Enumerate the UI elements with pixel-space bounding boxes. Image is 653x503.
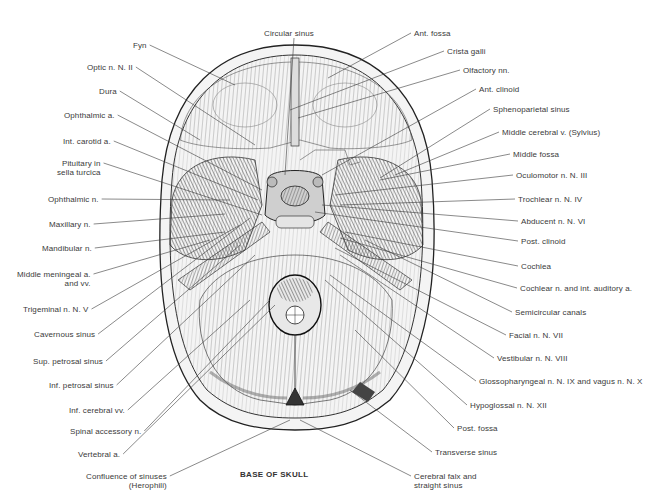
label-transverse-sinus: Transverse sinus	[435, 448, 497, 457]
label-trigeminal-n-n-v: Trigeminal n. N. V	[23, 305, 89, 314]
label-ant-fossa: Ant. fossa	[414, 29, 451, 38]
label-ant-clinoid: Ant. clinoid	[479, 85, 519, 94]
leader-line-confluence-of-sinuses-herophili	[170, 420, 290, 476]
label-abducent-n-n-vi: Abducent n. N. VI	[521, 217, 585, 226]
label-sphenoparietal-sinus: Sphenoparietal sinus	[493, 105, 570, 114]
label-hypoglossal-n-n-xii: Hypoglossal n. N. XII	[470, 401, 547, 410]
base-of-skull-illustration: FynOptic n. N. IIDuraOphthalmic a.Int. c…	[0, 0, 653, 503]
label-post-clinoid: Post. clinoid	[521, 237, 565, 246]
label-trochlear-n-n-iv: Trochlear n. N. IV	[518, 195, 582, 204]
label-confluence-of-sinuses-herophili: Confluence of sinuses (Herophili)	[86, 472, 167, 490]
label-ophthalmic-a: Ophthalmic a.	[64, 111, 115, 120]
label-pituitary-in-sella-turcica: Pituitary in sella turcica	[57, 159, 101, 177]
label-semicircular-canals: Semicircular canals	[515, 308, 586, 317]
label-glossopharyngeal-n-n-ix-and-vagus-n-n-x: Glossopharyngeal n. N. IX and vagus n. N…	[479, 377, 643, 386]
label-cavernous-sinus: Cavernous sinus	[34, 330, 95, 339]
label-cerebral-falx-and-straight-sinus: Cerebral falx and straight sinus	[414, 472, 477, 490]
label-olfactory-nn: Olfactory nn.	[463, 66, 510, 75]
label-vestibular-n-n-viii: Vestibular n. N. VIII	[497, 354, 568, 363]
label-circular-sinus: Circular sinus	[264, 29, 314, 38]
label-middle-cerebral-v-sylvius: Middle cerebral v. (Sylvius)	[502, 128, 600, 137]
label-fyn: Fyn	[133, 41, 147, 50]
label-crista-galli: Crista galli	[447, 47, 486, 56]
label-sup-petrosal-sinus: Sup. petrosal sinus	[33, 357, 103, 366]
label-oculomotor-n-n-iii: Oculomotor n. N. III	[516, 171, 587, 180]
label-ophthalmic-n: Ophthalmic n.	[48, 195, 99, 204]
label-maxillary-n: Maxillary n.	[49, 220, 91, 229]
label-facial-n-n-vii: Facial n. N. VII	[509, 331, 563, 340]
leader-line-cerebral-falx-and-straight-sinus	[300, 420, 411, 476]
label-int-carotid-a: Int. carotid a.	[63, 137, 111, 146]
label-inf-cerebral-vv: Inf. cerebral vv.	[69, 406, 125, 415]
label-cochlear-n-and-int-auditory-a: Cochlear n. and int. auditory a.	[520, 284, 632, 293]
label-optic-n-n-ii: Optic n. N. II	[87, 63, 133, 72]
label-post-fossa: Post. fossa	[457, 424, 498, 433]
label-dura: Dura	[99, 87, 117, 96]
label-middle-fossa: Middle fossa	[513, 150, 559, 159]
label-mandibular-n: Mandibular n.	[42, 244, 92, 253]
label-middle-meningeal-a-and-vv: Middle meningeal a. and vv.	[17, 270, 91, 288]
figure-title: BASE OF SKULL	[240, 470, 308, 479]
label-cochlea: Cochlea	[521, 262, 551, 271]
label-vertebral-a: Vertebral a.	[78, 450, 120, 459]
label-spinal-accessory-n: Spinal accessory n.	[70, 427, 141, 436]
label-inf-petrosal-sinus: Inf. petrosal sinus	[49, 381, 114, 390]
